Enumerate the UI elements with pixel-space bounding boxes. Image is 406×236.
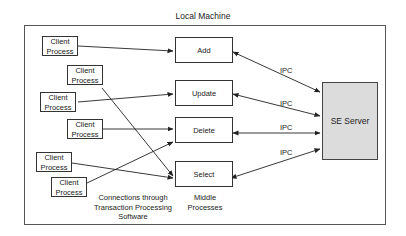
middle-process-add: Add [175,37,233,63]
middle-process-delete: Delete [175,117,233,143]
client-process-text-5: ClientProcess [36,153,72,172]
client-process-text-6: ClientProcess [51,178,87,197]
ipc-label-1: IPC [280,66,293,76]
client-process-text-3: ClientProcess [40,93,76,112]
connections-annotation: Connections through Transaction Processi… [88,193,178,222]
middle-processes-annotation: Middle Processes [180,193,230,212]
middle-process-update: Update [175,80,233,106]
ipc-label-3: IPC [280,123,293,133]
ipc-label-2: IPC [280,99,293,109]
middle-process-select: Select [175,161,233,187]
client-process-text-1: ClientProcess [42,37,78,56]
client-process-text-4: ClientProcess [67,120,103,139]
se-server: SE Server [322,82,378,160]
ipc-label-4: IPC [280,148,293,158]
client-process-text-2: ClientProcess [67,66,103,85]
